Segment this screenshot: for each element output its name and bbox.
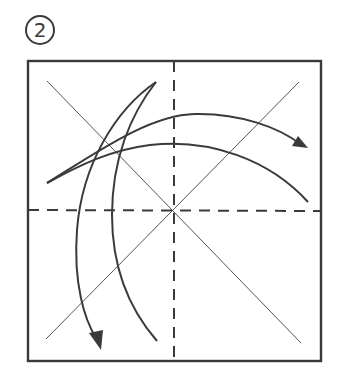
fold-down-arrow: [76, 82, 157, 350]
step-number-badge: 2: [26, 16, 54, 44]
origami-step-diagram: 2: [0, 0, 340, 387]
horizontal-valley-fold: [28, 210, 321, 211]
fold-right-arrow: [47, 114, 308, 202]
arrowhead-down-icon: [89, 330, 103, 350]
arrowhead-right-icon: [292, 136, 308, 148]
step-number: 2: [34, 18, 47, 42]
